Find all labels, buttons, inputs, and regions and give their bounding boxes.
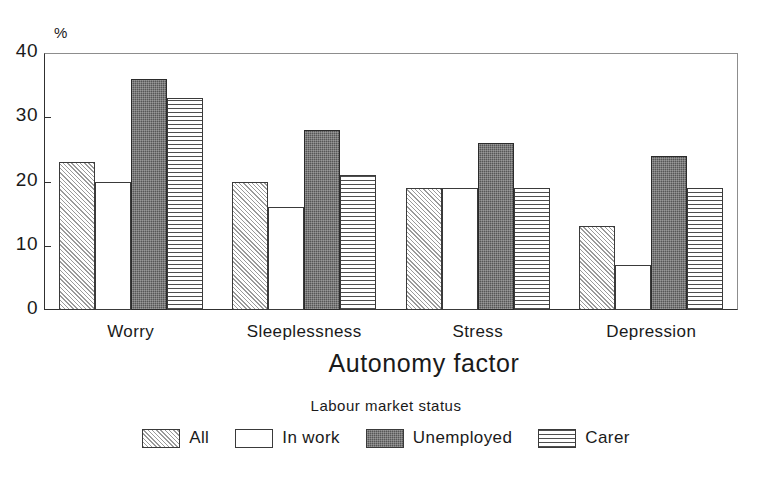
legend: AllIn workUnemployedCarer (0, 428, 772, 448)
bar (304, 130, 340, 310)
legend-item-in-work[interactable]: In work (235, 428, 340, 448)
bar (687, 188, 723, 310)
legend-item-label: Carer (585, 428, 630, 448)
bar-group (406, 53, 550, 310)
y-tick-label: 40 (4, 40, 38, 62)
bar (340, 175, 376, 310)
x-tick-label: Stress (391, 322, 565, 342)
bar (442, 188, 478, 310)
x-tick-label: Worry (44, 322, 218, 342)
legend-title: Labour market status (0, 397, 772, 414)
bar (615, 265, 651, 310)
legend-swatch-icon (235, 429, 273, 448)
bar (514, 188, 550, 310)
bars-layer (44, 53, 738, 310)
legend-item-unemployed[interactable]: Unemployed (366, 428, 512, 448)
bar-chart-figure: % 010203040 WorrySleeplessnessStressDepr… (0, 0, 772, 496)
bar (167, 98, 203, 310)
y-tick-label: 30 (4, 104, 38, 126)
legend-item-carer[interactable]: Carer (538, 428, 630, 448)
x-tick-label: Depression (565, 322, 739, 342)
bar (651, 156, 687, 310)
legend-item-label: In work (282, 428, 340, 448)
bar (131, 79, 167, 310)
bar (579, 226, 615, 310)
bar (406, 188, 442, 310)
legend-swatch-icon (366, 429, 404, 448)
legend-item-all[interactable]: All (142, 428, 209, 448)
legend-swatch-icon (142, 429, 180, 448)
bar (95, 182, 131, 311)
y-tick-label: 20 (4, 169, 38, 191)
bar (59, 162, 95, 310)
x-tick-label: Sleeplessness (218, 322, 392, 342)
bar-group (232, 53, 376, 310)
legend-item-label: All (189, 428, 209, 448)
bar-group (579, 53, 723, 310)
y-axis-unit-label: % (54, 24, 68, 41)
bar-group (59, 53, 203, 310)
bar (268, 207, 304, 310)
y-tick-label: 0 (4, 297, 38, 319)
legend-item-label: Unemployed (413, 428, 512, 448)
x-axis-title: Autonomy factor (0, 349, 772, 378)
y-tick-label: 10 (4, 233, 38, 255)
bar (478, 143, 514, 310)
bar (232, 182, 268, 311)
legend-swatch-icon (538, 429, 576, 448)
